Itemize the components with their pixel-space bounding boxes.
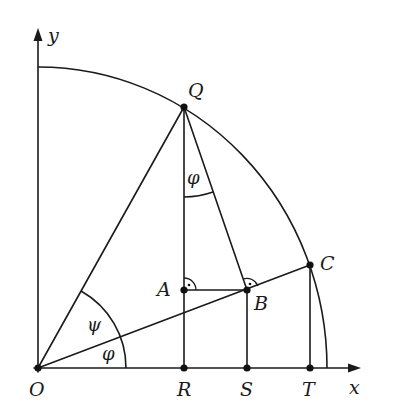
label-y-axis: y [47, 24, 59, 46]
angle-arc-phi-Q [184, 192, 213, 197]
point-S [243, 364, 250, 371]
right-angle-dot-A [188, 284, 191, 287]
label-B: B [253, 292, 268, 314]
point-O [34, 364, 41, 371]
label-S: S [240, 378, 253, 400]
point-A [180, 286, 187, 293]
label-Q: Q [188, 79, 204, 101]
points [34, 103, 313, 371]
segments [38, 107, 310, 368]
label-angle-phi-Q: φ [187, 167, 200, 188]
x-axis-arrow-icon [348, 364, 361, 373]
label-A: A [155, 278, 171, 300]
point-Q [180, 103, 187, 110]
label-angle-psi: ψ [87, 314, 102, 335]
point-T [306, 364, 313, 371]
segment-OC [38, 265, 310, 368]
segment-OQ [38, 107, 184, 368]
label-C: C [320, 252, 335, 274]
point-C [306, 261, 313, 268]
y-axis-arrow-icon [34, 28, 43, 41]
segment-QB [184, 107, 247, 290]
label-x-axis: x [349, 376, 360, 398]
geometry-diagram: y x O R S T Q A B C ψ φ φ [0, 0, 394, 418]
right-angle-dot-B [249, 283, 252, 286]
quarter-circle-arc [38, 67, 327, 368]
label-O: O [29, 378, 45, 400]
point-R [180, 364, 187, 371]
label-angle-phi-O: φ [102, 343, 115, 364]
point-B [243, 286, 250, 293]
label-R: R [176, 378, 191, 400]
label-T: T [302, 378, 316, 400]
